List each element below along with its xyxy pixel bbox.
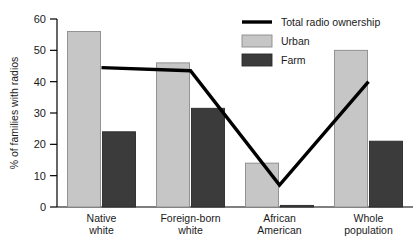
bar-urban — [246, 163, 279, 207]
legend-label: Total radio ownership — [281, 16, 380, 28]
y-axis-tick-label: 30 — [34, 107, 46, 119]
legend-marker-swatch — [242, 35, 272, 47]
bar-farm — [192, 108, 225, 207]
bar-farm — [103, 132, 136, 207]
legend-label: Urban — [281, 35, 310, 47]
legend-label: Farm — [281, 54, 306, 66]
x-axis-category-label: white — [177, 224, 203, 236]
x-axis-category-label: Whole — [354, 212, 384, 224]
bar-urban — [68, 32, 101, 207]
x-axis-category-label: American — [257, 224, 302, 236]
y-axis-tick-label: 60 — [34, 13, 46, 25]
y-axis-tick-label: 20 — [34, 138, 46, 150]
x-axis-category-label: population — [344, 224, 393, 236]
x-axis-category-label: Foreign-born — [160, 212, 220, 224]
y-axis-tick-label: 50 — [34, 44, 46, 56]
bar-urban — [157, 63, 190, 207]
legend-marker-swatch — [242, 54, 272, 66]
x-axis-category-label: Native — [87, 212, 117, 224]
y-axis-tick-label: 40 — [34, 76, 46, 88]
y-axis-title: % of families with radios — [8, 57, 20, 170]
chart-container: 0102030405060 % of families with radios … — [0, 0, 419, 251]
y-axis-tick-label: 0 — [40, 201, 46, 213]
bar-farm — [281, 205, 314, 207]
bar-urban — [335, 50, 368, 207]
x-axis-category-label: African — [263, 212, 296, 224]
y-axis-tick-label: 10 — [34, 170, 46, 182]
bar-farm — [370, 141, 403, 207]
radio-ownership-chart: 0102030405060 % of families with radios … — [0, 0, 419, 251]
x-axis-category-label: white — [88, 224, 114, 236]
